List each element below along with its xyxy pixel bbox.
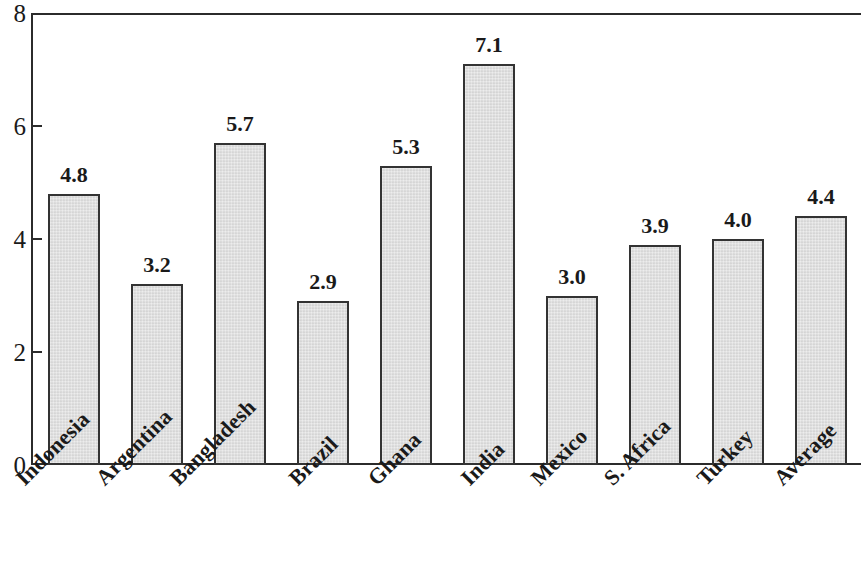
bar-value-label: 4.0 (703, 209, 773, 231)
bar-value-label: 2.9 (288, 271, 358, 293)
y-axis-tick-label: 4 (2, 227, 26, 252)
bar-value-label: 4.8 (39, 164, 109, 186)
y-axis-labels: 02468 (0, 13, 26, 465)
y-axis-tick-label: 6 (2, 114, 26, 139)
y-axis-tick-6 (31, 125, 42, 127)
bar-value-label: 7.1 (454, 34, 524, 56)
bar-value-label: 5.3 (371, 136, 441, 158)
bar-fill-texture (465, 66, 513, 463)
y-axis-tick-label: 2 (2, 340, 26, 365)
bar-fill-texture (382, 168, 430, 463)
y-axis-tick-4 (31, 238, 42, 240)
bar (463, 64, 515, 465)
bar (380, 166, 432, 465)
bar-value-label: 3.9 (620, 215, 690, 237)
bar-value-label: 3.2 (122, 254, 192, 276)
y-axis-tick-2 (31, 351, 42, 353)
bar-value-label: 3.0 (537, 266, 607, 288)
y-axis-tick-label: 8 (2, 1, 26, 26)
bar-value-label: 5.7 (205, 113, 275, 135)
bar-value-label: 4.4 (786, 186, 856, 208)
